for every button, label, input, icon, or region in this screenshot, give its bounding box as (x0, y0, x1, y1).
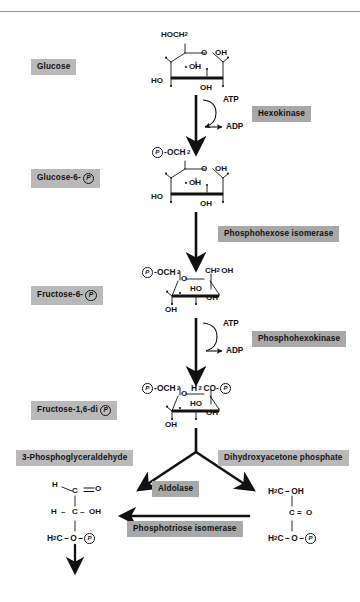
cofactor-atp-2: ATP (223, 320, 239, 328)
cofactor-adp-1: ADP (226, 123, 243, 131)
g3p-c1-carbonyl-oxygen: O (95, 485, 101, 493)
circled-p-icon: P (83, 173, 95, 185)
metabolite-label-glucose: Glucose (31, 59, 76, 75)
g6p-anomeric-hydroxyl: OH (215, 165, 227, 173)
circled-p-icon: P (85, 290, 97, 302)
g3p-c3-phosphate-group: H2C – O – P (47, 533, 95, 544)
enzyme-label-phosphotriose-isomerase: Phosphotriose isomerase (127, 521, 243, 537)
circled-p-icon: P (100, 405, 112, 417)
circled-p-icon: P (84, 533, 95, 544)
cofactor-adp-2: ADP (226, 347, 243, 355)
dhap-c3-phosphate-group: H2C – O – P (268, 533, 316, 544)
g6p-ring-oxygen: O (201, 165, 207, 173)
bond-dash: – (285, 534, 290, 542)
f6p-c3-hydroxyl: OH (206, 294, 218, 302)
fbp-c4-hydroxyl: OH (165, 421, 177, 429)
fbp-c3-hydroxyl: OH (206, 409, 218, 417)
g3p-c2-carbon: C (72, 508, 78, 516)
top-divider-rule (0, 11, 360, 12)
g3p-chain-bonds (62, 487, 94, 571)
g6p-c4-hydroxyl: HO (151, 193, 163, 201)
dhap-c2-ketone-oxygen: O (306, 509, 312, 517)
enzyme-label-hexokinase: Hexokinase (252, 106, 311, 122)
circled-p-icon: P (152, 147, 163, 158)
g6p-c6-phosphate-group: P -OCH2 (152, 147, 190, 158)
f6p-c2-hydroxyl: HO (190, 285, 202, 293)
enzyme-label-phosphohexose-isomerase: Phosphohexose isomerase (218, 226, 339, 242)
fbp-c2-hydroxyl: HO (190, 400, 202, 408)
glycolysis-diagram: Glucose HOCH2 O OH OH HO OH ATP ADP Hexo… (0, 0, 360, 602)
fbp-ring-oxygen: O (181, 390, 187, 398)
g3p-c1-hydrogen: H (52, 481, 58, 489)
g3p-c2-bond-dash-2: – (80, 508, 84, 516)
circled-p-icon: P (220, 383, 231, 394)
circled-p-icon: P (305, 533, 316, 544)
fbp-c6-phosphate-group: P -OCH2 (142, 383, 180, 394)
glucose-c4-hydroxyl: HO (151, 77, 163, 85)
f6p-ring-oxygen: O (181, 275, 187, 283)
metabolite-label-fructose-1-6-bisphosphate: Fructose-1,6-di P (31, 401, 117, 420)
fbp-c1-phosphate-group: H2CO- P (191, 383, 231, 394)
f6p-c4-hydroxyl: OH (165, 306, 177, 314)
dhap-c2-double-bond: = (297, 509, 302, 517)
metabolite-label-dihydroxyacetone-phosphate: Dihydroxyacetone phosphate (218, 450, 349, 466)
glucose-c3-hydroxyl: OH (200, 84, 212, 92)
bond-dash: – (285, 487, 290, 495)
bond-dash: – (78, 534, 83, 542)
g3p-c2-bond-dash: – (61, 508, 65, 516)
atp-adp-curve-1 (203, 100, 216, 127)
g6p-c3-hydroxyl: OH (200, 200, 212, 208)
cofactor-atp-1: ATP (223, 96, 239, 104)
g3p-c1-carbon: C (72, 487, 78, 495)
f6p-c6-phosphate-group: P -OCH2 (142, 267, 180, 278)
metabolite-label-glucose-6-phosphate: Glucose-6- P (31, 169, 100, 188)
metabolite-label-fructose-6-phosphate: Fructose-6- P (31, 286, 103, 305)
bond-dash: – (64, 534, 69, 542)
bond-dash: – (299, 534, 304, 542)
atp-adp-curve-2 (203, 323, 217, 351)
circled-p-icon: P (142, 383, 153, 394)
glucose-c2-hydroxyl: OH (189, 63, 201, 71)
glucose-anomeric-hydroxyl: OH (215, 49, 227, 57)
dhap-c2-carbon: C (289, 509, 295, 517)
g3p-c2-hydroxyl: OH (89, 508, 101, 516)
g3p-c2-hydrogen: H (51, 508, 57, 516)
circled-p-icon: P (142, 267, 153, 278)
g6p-c2-hydroxyl: OH (189, 179, 201, 187)
glucose-ring-oxygen: O (201, 49, 207, 57)
metabolite-label-3-phosphoglyceraldehyde: 3-Phosphoglyceraldehyde (16, 450, 133, 466)
dhap-c1-hydroxymethyl: H2C – OH (268, 487, 304, 495)
glucose-c6-hydroxymethyl: HOCH2 (161, 31, 188, 39)
f6p-c1-hydroxymethyl: CH2OH (205, 267, 233, 275)
enzyme-label-phosphohexokinase: Phosphohexokinase (252, 331, 346, 347)
enzyme-label-aldolase: Aldolase (152, 481, 199, 497)
